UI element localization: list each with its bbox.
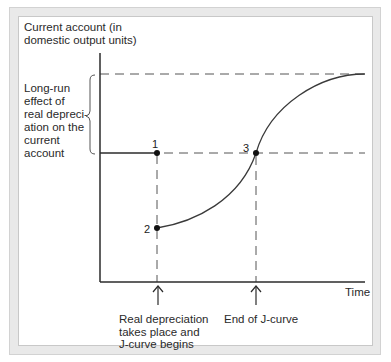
x-axis-label: Time: [345, 286, 370, 299]
arrow-up-icon: [251, 286, 261, 305]
point-3-label: 3: [243, 142, 249, 154]
arrow-up-icon: [153, 286, 163, 305]
point-2-label: 2: [144, 223, 150, 235]
point-3-marker: [253, 150, 259, 156]
end-jcurve-annotation: End of J-curve: [224, 313, 298, 326]
point-2-marker: [154, 225, 160, 231]
point-1-label: 1: [152, 138, 158, 150]
annotation-line: J-curve begins: [119, 338, 209, 351]
j-curve: [157, 74, 365, 228]
depreciation-annotation: Real depreciation takes place and J-curv…: [119, 313, 209, 351]
curly-brace-icon: [86, 75, 95, 154]
annotation-line: Real depreciation: [119, 313, 209, 326]
chart-canvas: [0, 0, 391, 362]
point-1-marker: [154, 150, 160, 156]
annotation-line: takes place and: [119, 326, 209, 339]
